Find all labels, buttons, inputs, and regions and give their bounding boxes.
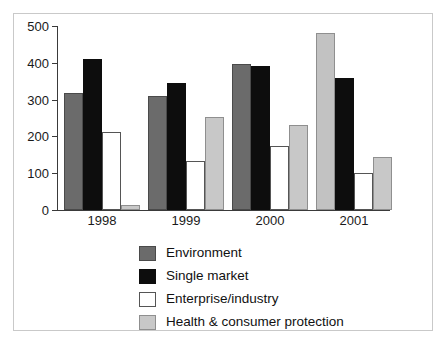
bar-group: 1998 [64,26,140,210]
legend-swatch [139,269,156,284]
legend-item: Health & consumer protection [139,312,344,332]
bar [186,161,205,210]
x-axis-tick-label: 2000 [256,214,285,227]
bar-group: 1999 [148,26,224,210]
x-axis-tick-label: 1998 [88,214,117,227]
y-axis-tick-mark [52,63,57,64]
x-axis-tick-label: 1999 [172,214,201,227]
plot-area: 0100200300400500 1998199920002001 [57,26,390,210]
legend-swatch [139,292,156,307]
bar [316,33,335,210]
chart-figure: 0100200300400500 1998199920002001 Enviro… [0,0,446,344]
y-axis-tick-label: 0 [42,204,49,217]
chart-legend: EnvironmentSingle marketEnterprise/indus… [139,243,344,335]
y-axis-tick-mark [52,173,57,174]
legend-label: Health & consumer protection [166,315,344,329]
bar [205,117,224,210]
y-axis-tick-label: 100 [27,167,49,180]
bar [102,132,121,210]
y-axis-tick-label: 200 [27,130,49,143]
bar [289,125,308,210]
bar-group: 2001 [316,26,392,210]
bar [354,173,373,210]
bar [335,78,354,210]
bar [232,64,251,210]
bar [64,93,83,210]
bar-group: 2000 [232,26,308,210]
legend-label: Environment [166,246,242,260]
bar [121,205,140,210]
x-axis-line [57,210,390,211]
y-axis-tick-mark [52,100,57,101]
bar [251,66,270,210]
y-axis-tick-mark [52,136,57,137]
legend-item: Environment [139,243,344,263]
bar [83,59,102,210]
bar [373,157,392,210]
y-axis-tick-label: 300 [27,93,49,106]
legend-item: Single market [139,266,344,286]
legend-item: Enterprise/industry [139,289,344,309]
x-axis-tick-label: 2001 [340,214,369,227]
y-axis-tick-label: 500 [27,20,49,33]
bar [148,96,167,210]
y-axis-tick-label: 400 [27,56,49,69]
y-axis-tick-mark [52,26,57,27]
legend-swatch [139,315,156,330]
legend-label: Single market [166,269,249,283]
bar [167,83,186,210]
y-axis-tick-mark [52,210,57,211]
y-axis-line [57,26,58,210]
legend-swatch [139,246,156,261]
legend-label: Enterprise/industry [166,292,279,306]
bar [270,146,289,210]
